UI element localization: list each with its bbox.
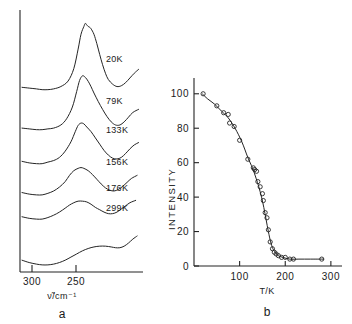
spectrum-trace-299k — [22, 236, 137, 265]
panel-a-xtick-label-300: 300 — [23, 276, 41, 287]
data-point — [227, 121, 231, 125]
panel-b-ytick-label-60: 60 — [177, 157, 189, 168]
temp-label-176k: 176K — [106, 183, 128, 193]
panel-a-xtick-label-250: 250 — [67, 276, 85, 287]
panel-b-x-ticks — [240, 261, 331, 266]
panel-b-x-axis-title: T/K — [259, 286, 274, 296]
panel-b-ytick-label-20: 20 — [177, 226, 189, 237]
panel-b-x-tick-labels: 100200300 — [231, 271, 340, 282]
panel-b-data-points — [201, 92, 324, 262]
panel-b-fit-curve — [202, 94, 324, 259]
panel-a-x-axis-title: ν̃/cm⁻¹ — [47, 291, 76, 301]
panel-b-labels: INTENSITY T/K b — [166, 168, 275, 319]
panel-b-letter: b — [264, 305, 271, 319]
panel-a-raman-spectra: 20K 79K 133K 156K 176K 299K 300 250 ν̃/c… — [0, 0, 170, 324]
panel-b-svg: 020406080100 100200300 INTENSITY T/K b — [162, 0, 352, 324]
temp-label-299k: 299K — [106, 203, 128, 213]
temp-label-20k: 20K — [106, 54, 123, 64]
figure-container: 20K 79K 133K 156K 176K 299K 300 250 ν̃/c… — [0, 0, 352, 324]
panel-b-y-ticks — [194, 94, 199, 266]
panel-b-ytick-label-80: 80 — [177, 123, 189, 134]
panel-b-y-axis-title: INTENSITY — [166, 168, 177, 230]
panel-b-xtick-label-200: 200 — [276, 271, 294, 282]
panel-a-axes — [20, 10, 143, 272]
panel-b-intensity-vs-temperature: 020406080100 100200300 INTENSITY T/K b — [162, 0, 352, 324]
temp-label-133k: 133K — [106, 125, 128, 135]
panel-b-ytick-label-100: 100 — [171, 88, 189, 99]
temp-label-79k: 79K — [106, 96, 123, 106]
panel-b-ytick-label-0: 0 — [183, 261, 189, 272]
data-point — [226, 112, 230, 116]
panel-a-svg: 20K 79K 133K 156K 176K 299K 300 250 ν̃/c… — [0, 0, 170, 324]
panel-b-ytick-label-40: 40 — [177, 192, 189, 203]
temp-label-156k: 156K — [106, 157, 128, 167]
panel-a-temperature-labels: 20K 79K 133K 156K 176K 299K — [106, 54, 128, 213]
panel-b-xtick-label-300: 300 — [322, 271, 340, 282]
panel-b-xtick-label-100: 100 — [231, 271, 249, 282]
panel-a-letter: a — [59, 307, 66, 321]
panel-a-labels: 300 250 ν̃/cm⁻¹ a — [23, 276, 85, 321]
